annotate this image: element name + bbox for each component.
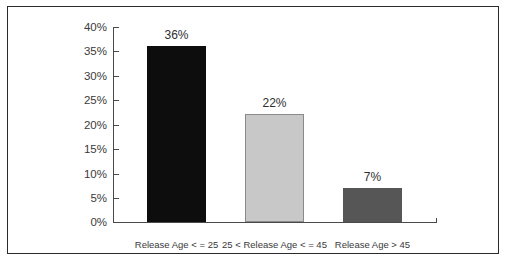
y-axis-label-35: 35% — [71, 45, 107, 57]
y-axis-label-10: 10% — [71, 168, 107, 180]
x-axis-end-tick — [436, 218, 437, 223]
y-axis-tick-5 — [113, 198, 119, 199]
bar-release-age-lte-25[interactable] — [147, 46, 206, 222]
y-axis-label-0: 0% — [71, 216, 107, 228]
y-axis-label-25: 25% — [71, 94, 107, 106]
plot-area: 40% 35% 30% 25% 20% 15% 10% 5% 0% 36% 22… — [0, 0, 507, 263]
y-axis-label-40: 40% — [71, 21, 107, 33]
y-axis-label-20: 20% — [71, 119, 107, 131]
y-axis-label-5: 5% — [71, 192, 107, 204]
y-axis-tick-35 — [113, 51, 119, 52]
bar-value-label-2: 22% — [245, 96, 304, 110]
bar-release-age-gt-45[interactable] — [343, 188, 402, 222]
chart-figure: 40% 35% 30% 25% 20% 15% 10% 5% 0% 36% 22… — [0, 0, 507, 263]
y-axis-label-15: 15% — [71, 143, 107, 155]
bar-release-age-26-to-45[interactable] — [245, 114, 304, 222]
y-axis-tick-40 — [113, 27, 119, 28]
y-axis-tick-10 — [113, 174, 119, 175]
y-axis-label-30: 30% — [71, 70, 107, 82]
bar-value-label-1: 36% — [147, 28, 206, 42]
x-axis-line — [113, 222, 437, 223]
y-axis-tick-20 — [113, 125, 119, 126]
y-axis-tick-15 — [113, 149, 119, 150]
bar-value-label-3: 7% — [343, 170, 402, 184]
x-axis-category-label-3: Release Age > 45 — [313, 239, 432, 250]
y-axis-tick-30 — [113, 76, 119, 77]
y-axis-tick-25 — [113, 100, 119, 101]
